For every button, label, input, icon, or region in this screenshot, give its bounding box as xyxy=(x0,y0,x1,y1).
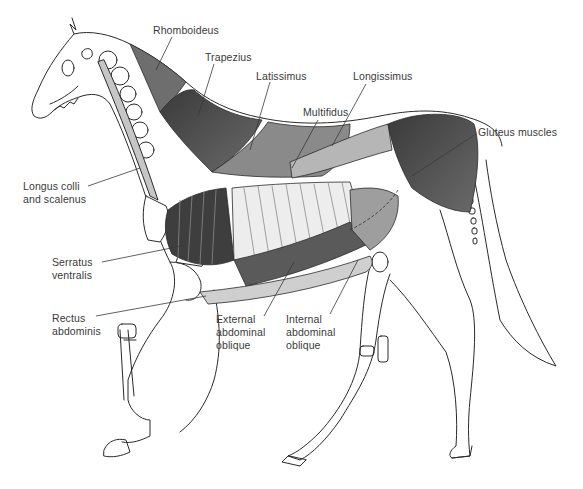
scapula xyxy=(143,196,168,242)
label-external-oblique: External abdominal oblique xyxy=(216,313,265,352)
hind-leg-bones xyxy=(288,266,390,460)
serratus-muscle xyxy=(165,188,234,265)
label-gluteus: Gluteus muscles xyxy=(478,126,557,139)
label-latissimus: Latissimus xyxy=(256,70,307,83)
foreleg-near xyxy=(122,210,175,443)
label-trapezius: Trapezius xyxy=(205,51,252,64)
eye xyxy=(62,60,74,76)
leader-rectus xyxy=(96,296,206,316)
tail xyxy=(470,160,556,366)
leader-longus-colli xyxy=(88,168,140,186)
muscles xyxy=(130,44,478,304)
label-rectus: Rectus abdominis xyxy=(52,312,101,338)
label-longus-colli: Longus colli and scalenus xyxy=(23,180,86,206)
label-multifidus: Multifidus xyxy=(303,106,348,119)
label-longissimus: Longissimus xyxy=(353,70,412,83)
label-rhomboideus: Rhomboideus xyxy=(153,24,219,37)
hind-hoof xyxy=(282,456,306,466)
foreleg-far xyxy=(180,290,219,432)
gluteus-muscle xyxy=(388,114,478,212)
label-internal-oblique: Internal abdominal oblique xyxy=(286,313,335,352)
hind-leg-outline xyxy=(390,210,475,458)
fore-hoof xyxy=(104,439,130,456)
label-serratus: Serratus ventralis xyxy=(52,256,92,282)
